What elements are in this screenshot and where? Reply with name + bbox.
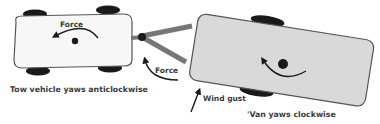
tow-pivot-dot (72, 38, 78, 44)
diagram-canvas: Force Force Wind gust Tow vehicle yaws a… (0, 0, 380, 124)
van-caption: 'Van yaws clockwise (247, 110, 336, 119)
hitch-force-label: Force (155, 66, 178, 75)
drawbar (131, 26, 192, 62)
tow-force-label: Force (60, 20, 83, 29)
wind-gust-label: Wind gust (203, 94, 246, 103)
hitch-ball (138, 33, 146, 41)
tow-caption: Tow vehicle yaws anticlockwise (10, 85, 148, 94)
wind-gust-arrow-icon (191, 91, 199, 112)
tow-wheel-front-right (96, 6, 120, 15)
tow-vehicle: Force (14, 6, 132, 76)
van-pivot-dot (278, 59, 288, 69)
snaking-diagram: Force Force Wind gust Tow vehicle yaws a… (0, 0, 380, 124)
